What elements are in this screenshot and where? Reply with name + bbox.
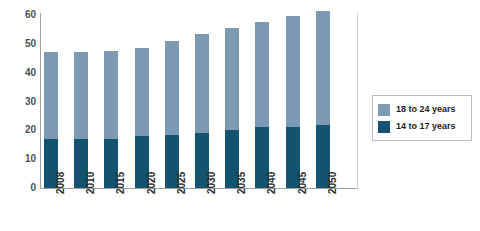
bars-layer: 2008201020152020202520302035204020452050 [40,0,358,231]
x-axis-tick-label: 2015 [116,172,126,194]
y-axis-tick-label: 40 [4,68,36,78]
x-axis-tick-label: 2025 [177,172,187,194]
x-axis-tick-label: 2030 [207,172,217,194]
bar-group [165,41,179,188]
y-axis-tick-label: 60 [4,10,36,20]
bar-group [195,34,209,188]
x-axis-tick-label: 2020 [147,172,157,194]
y-axis-tick-label: 50 [4,39,36,49]
bar-segment-18-to-24 [74,52,88,139]
x-axis-tick-label: 2008 [56,172,66,194]
y-axis-tick-label: 30 [4,97,36,107]
bar-group [286,16,300,188]
bar-segment-18-to-24 [104,51,118,139]
legend-item[interactable]: 18 to 24 years [378,101,466,118]
chart-legend: 18 to 24 years14 to 17 years [372,95,472,141]
bar-segment-18-to-24 [225,28,239,130]
x-axis-tick-label: 2050 [328,172,338,194]
x-axis-tick-label: 2035 [237,172,247,194]
x-axis-tick-label: 2010 [86,172,96,194]
bar-group [255,22,269,188]
bar-segment-18-to-24 [195,34,209,133]
legend-color-swatch [378,104,390,116]
bar-group [135,48,149,188]
bar-segment-18-to-24 [44,52,58,139]
plot-area: 0102030405060 20082010201520202025203020… [0,0,360,231]
bar-segment-18-to-24 [255,22,269,127]
legend-item-label: 18 to 24 years [396,105,456,114]
bar-group [225,28,239,188]
bar-group [316,11,330,188]
bar-segment-18-to-24 [165,41,179,135]
bar-segment-18-to-24 [135,48,149,136]
stacked-bar-chart: 0102030405060 20082010201520202025203020… [0,0,480,231]
y-axis-tick-label: 20 [4,125,36,135]
legend-item-label: 14 to 17 years [396,122,456,131]
y-axis-tick-labels: 0102030405060 [0,0,36,231]
x-axis-tick-label: 2040 [267,172,277,194]
y-axis-tick-label: 0 [4,183,36,193]
bar-segment-18-to-24 [316,11,330,125]
bar-segment-18-to-24 [286,16,300,127]
bar-group [104,51,118,188]
legend-color-swatch [378,121,390,133]
bar-group [74,52,88,188]
bar-group [44,52,58,188]
x-axis-tick-label: 2045 [298,172,308,194]
y-axis-tick-label: 10 [4,154,36,164]
legend-item[interactable]: 14 to 17 years [378,118,466,135]
